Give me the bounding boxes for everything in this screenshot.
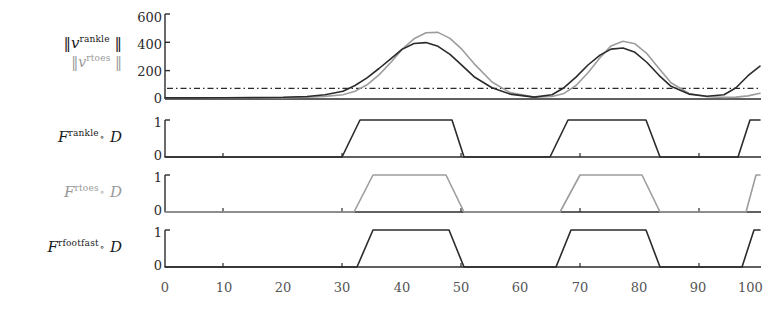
- ytick-200: 200: [126, 65, 162, 78]
- ytick-1-rfootfast: 1: [126, 226, 162, 239]
- ytick-0: 0: [126, 92, 162, 105]
- gait-signal-figure: ‖vrankle ‖ ‖vrtoes ‖ 600 400 200 0: [0, 0, 769, 311]
- xtick-label-90: 90: [678, 280, 718, 295]
- rtoes-speed-sup: rtoes: [86, 53, 110, 63]
- ytick-0-rankle: 0: [126, 149, 162, 162]
- xtick-label-60: 60: [500, 280, 540, 295]
- xtick-label-30: 30: [322, 280, 362, 295]
- rfootfast-filter-plot-area: [164, 222, 764, 276]
- rtoes-filter-panel: Frtoes∘ D 1 0: [0, 167, 769, 221]
- ytick-0-rtoes: 0: [126, 204, 162, 217]
- rankle-filter-plot-area: [164, 112, 764, 166]
- xtick-label-10: 10: [204, 280, 244, 295]
- rtoes-filter-plot-area: [164, 167, 764, 221]
- rtoes-speed-label: ‖vrtoes ‖: [71, 49, 122, 71]
- xtick-label-70: 70: [560, 280, 600, 295]
- xtick-label-20: 20: [263, 280, 303, 295]
- rtoes-filter-sup: rtoes: [74, 183, 98, 193]
- rfootfast-filter-sup: rfootfast: [58, 238, 99, 248]
- xtick-label-0: 0: [145, 280, 185, 295]
- x-axis-tick-labels: 0 10 20 30 40 50 60 70 80 90 100: [164, 280, 764, 304]
- xtick-label-40: 40: [382, 280, 422, 295]
- speed-panel-label: ‖vrankle ‖ ‖vrtoes ‖: [0, 30, 126, 76]
- rtoes-filter-waveform: [165, 175, 760, 212]
- speed-plot-area: [164, 4, 764, 108]
- rfootfast-filter-waveform: [165, 230, 760, 267]
- xtick-label-80: 80: [619, 280, 659, 295]
- ytick-600: 600: [126, 11, 162, 24]
- ytick-1-rtoes: 1: [126, 171, 162, 184]
- rankle-filter-waveform: [165, 120, 760, 157]
- rankle-filter-sup: rankle: [68, 128, 98, 138]
- xtick-label-50: 50: [441, 280, 481, 295]
- xtick-label-100: 100: [738, 280, 769, 295]
- ytick-0-rfootfast: 0: [126, 259, 162, 272]
- rfootfast-filter-panel: Frfootfast∘ D 1 0: [0, 222, 769, 276]
- rankle-speed-sup: rankle: [79, 34, 109, 44]
- ytick-400: 400: [126, 38, 162, 51]
- speed-panel: ‖vrankle ‖ ‖vrtoes ‖ 600 400 200 0: [0, 4, 769, 108]
- rankle-filter-panel: Frankle∘ D 1 0: [0, 112, 769, 166]
- ytick-1-rankle: 1: [126, 116, 162, 129]
